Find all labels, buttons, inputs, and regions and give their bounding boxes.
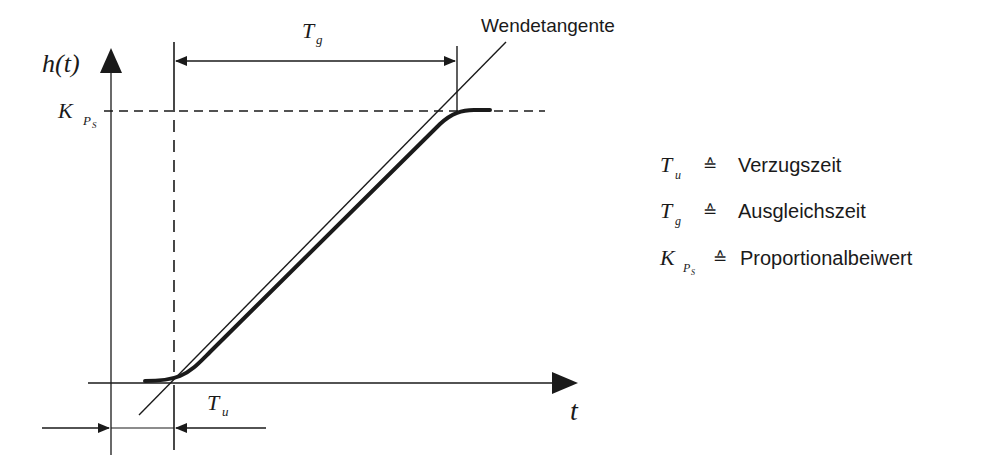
- svg-text:Verzugszeit: Verzugszeit: [738, 154, 842, 176]
- svg-text:g: g: [675, 214, 681, 228]
- correspondence-icon: ≙: [703, 202, 717, 221]
- svg-text:P: P: [682, 261, 691, 275]
- y-axis-label: h(t): [42, 49, 80, 78]
- correspondence-icon: ≙: [713, 249, 727, 268]
- steady-state-label: K P S: [57, 98, 97, 130]
- svg-text:K: K: [57, 98, 74, 123]
- svg-text:S: S: [92, 120, 97, 130]
- svg-text:T: T: [660, 152, 674, 177]
- svg-text:Proportionalbeiwert: Proportionalbeiwert: [740, 247, 913, 269]
- svg-text:S: S: [691, 268, 695, 277]
- x-axis-label: t: [570, 395, 579, 426]
- legend: T u ≙ Verzugszeit T g ≙ Ausgleichszeit K…: [659, 152, 913, 277]
- legend-item-tg: T g ≙ Ausgleichszeit: [660, 198, 866, 228]
- svg-text:g: g: [316, 32, 323, 47]
- tg-label: T g: [302, 18, 323, 47]
- svg-text:Ausgleichszeit: Ausgleichszeit: [738, 200, 866, 222]
- step-response-diagram: h(t) t K P S T g T u Wendetangente T u ≙: [0, 0, 991, 470]
- inflection-tangent-line: [139, 42, 506, 415]
- svg-text:T: T: [302, 18, 316, 43]
- svg-text:T: T: [660, 198, 674, 223]
- y-axis: [100, 48, 122, 455]
- svg-text:u: u: [675, 168, 681, 182]
- correspondence-icon: ≙: [703, 156, 717, 175]
- tangent-label: Wendetangente: [481, 15, 615, 36]
- step-response-curve: [145, 110, 490, 381]
- svg-text:K: K: [659, 245, 676, 270]
- svg-text:u: u: [222, 404, 229, 419]
- svg-text:T: T: [207, 390, 221, 415]
- legend-item-tu: T u ≙ Verzugszeit: [660, 152, 842, 182]
- y-axis-arrow-icon: [100, 48, 122, 73]
- x-axis-arrow-icon: [552, 372, 578, 394]
- svg-text:P: P: [82, 113, 91, 128]
- legend-item-kps: K P S ≙ Proportionalbeiwert: [659, 245, 913, 277]
- x-axis: [88, 372, 578, 394]
- tu-label: T u: [207, 390, 229, 419]
